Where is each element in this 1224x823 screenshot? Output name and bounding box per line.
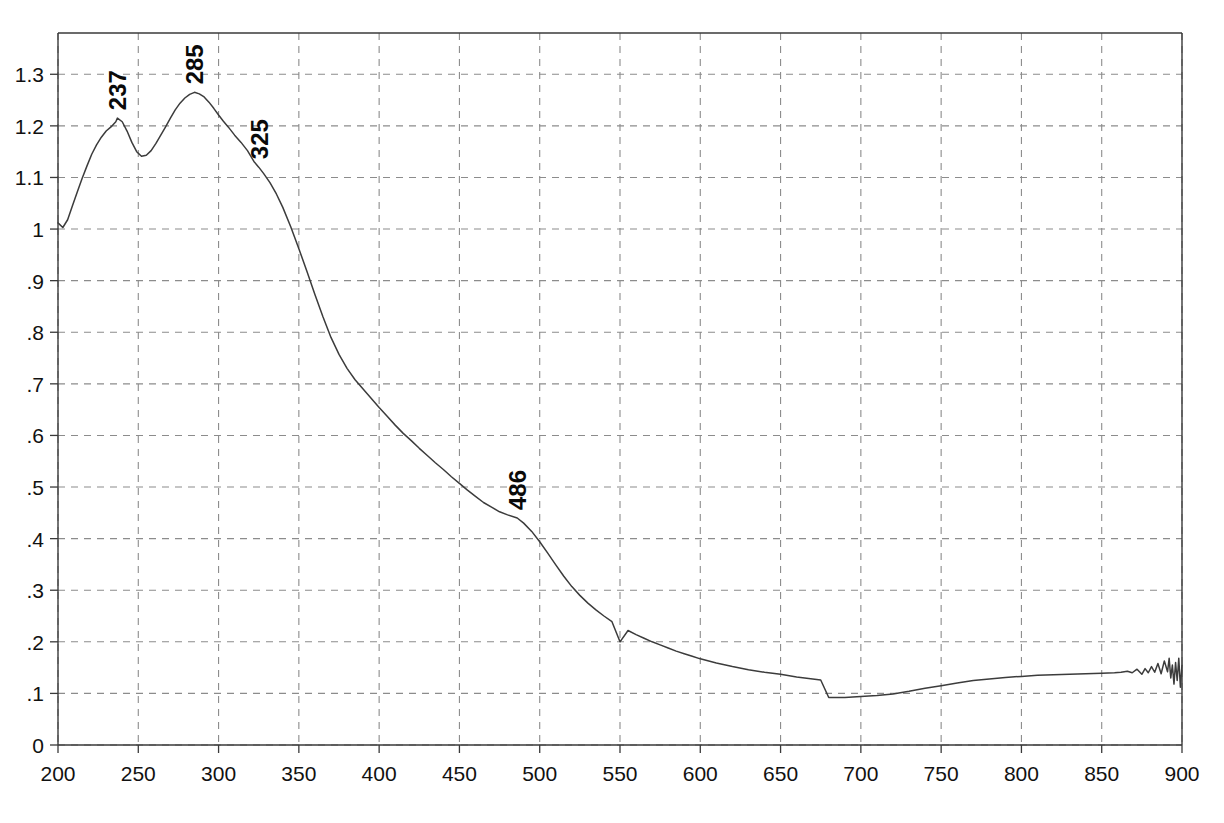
x-tick-label: 400 — [362, 762, 397, 785]
peak-label-325: 325 — [246, 119, 273, 159]
x-tick-label: 650 — [763, 762, 798, 785]
y-tick-label: 1.3 — [15, 63, 44, 86]
y-tick-label: .9 — [26, 270, 44, 293]
x-tick-label: 750 — [924, 762, 959, 785]
x-tick-label: 450 — [442, 762, 477, 785]
y-tick-label: .1 — [26, 682, 44, 705]
peak-label-237: 237 — [104, 70, 131, 110]
y-tick-label: .2 — [26, 631, 44, 654]
x-tick-label: 700 — [843, 762, 878, 785]
y-tick-label: 1.1 — [15, 166, 44, 189]
x-tick-label: 600 — [683, 762, 718, 785]
y-tick-label: 1.2 — [15, 115, 44, 138]
spectrum-chart-page: 2002503003504004505005506006507007508008… — [0, 0, 1224, 823]
x-tick-label: 200 — [40, 762, 75, 785]
y-tick-label: .6 — [26, 424, 44, 447]
y-tick-label: 1 — [32, 218, 44, 241]
y-tick-label: .3 — [26, 579, 44, 602]
x-tick-label: 550 — [602, 762, 637, 785]
peak-label-285: 285 — [181, 44, 208, 84]
x-tick-label: 250 — [121, 762, 156, 785]
x-tick-label: 350 — [281, 762, 316, 785]
y-tick-label: .4 — [26, 528, 44, 551]
x-tick-label: 850 — [1084, 762, 1119, 785]
y-tick-label: .5 — [26, 476, 44, 499]
y-tick-label: .8 — [26, 321, 44, 344]
uv-vis-spectrum-chart: 2002503003504004505005506006507007508008… — [0, 0, 1224, 823]
x-tick-label: 300 — [201, 762, 236, 785]
x-tick-label: 500 — [522, 762, 557, 785]
peak-label-486: 486 — [504, 470, 531, 510]
x-tick-label: 800 — [1004, 762, 1039, 785]
chart-background — [0, 0, 1224, 823]
x-tick-label: 900 — [1164, 762, 1199, 785]
x-axis-tick-labels: 2002503003504004505005506006507007508008… — [40, 762, 1199, 785]
y-tick-label: 0 — [32, 734, 44, 757]
y-tick-label: .7 — [26, 373, 44, 396]
